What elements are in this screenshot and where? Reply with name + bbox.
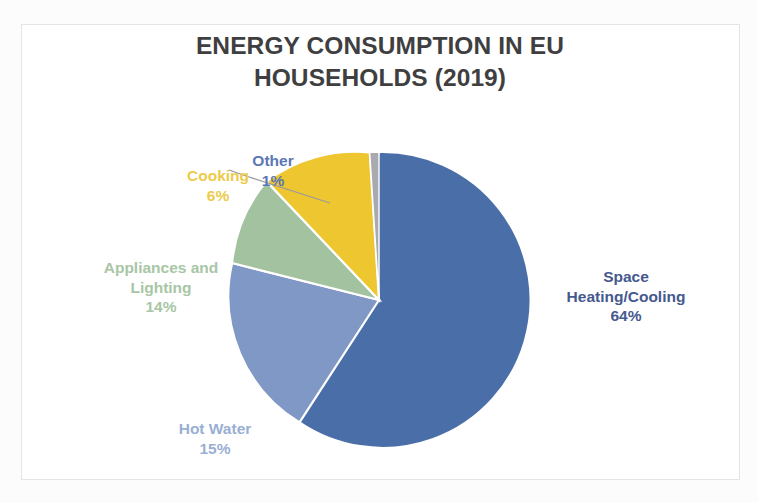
slice-label-hot-water-name: Hot Water bbox=[179, 420, 252, 437]
slice-label-other-name: Other bbox=[252, 152, 293, 169]
pie-chart-page: ENERGY CONSUMPTION IN EU HOUSEHOLDS (201… bbox=[0, 0, 758, 503]
slice-label-other: Other 1% bbox=[233, 131, 313, 210]
slice-label-space-heating-cooling: Space Heating/Cooling 64% bbox=[556, 247, 696, 346]
slice-label-other-pct: 1% bbox=[233, 171, 313, 191]
slice-label-hot-water: Hot Water 15% bbox=[145, 399, 285, 478]
slice-label-appliances-and-lighting-name: Appliances and Lighting bbox=[104, 259, 219, 296]
slice-label-space-heating-cooling-name: Space Heating/Cooling bbox=[567, 268, 686, 305]
pie-chart-graphic: Space Heating/Cooling 64% Hot Water 15% … bbox=[0, 0, 758, 503]
slice-label-appliances-and-lighting: Appliances and Lighting 14% bbox=[86, 238, 236, 337]
slice-label-appliances-and-lighting-pct: 14% bbox=[86, 297, 236, 317]
slice-label-hot-water-pct: 15% bbox=[145, 439, 285, 459]
slice-label-space-heating-cooling-pct: 64% bbox=[556, 306, 696, 326]
